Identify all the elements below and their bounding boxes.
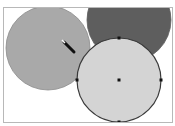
handle-bottom[interactable] xyxy=(118,121,121,123)
drawing-canvas[interactable] xyxy=(3,7,173,123)
handle-right[interactable] xyxy=(160,79,163,82)
canvas-svg xyxy=(4,8,172,122)
handle-top[interactable] xyxy=(118,37,121,40)
handle-left[interactable] xyxy=(76,79,79,82)
handle-center[interactable] xyxy=(118,79,121,82)
